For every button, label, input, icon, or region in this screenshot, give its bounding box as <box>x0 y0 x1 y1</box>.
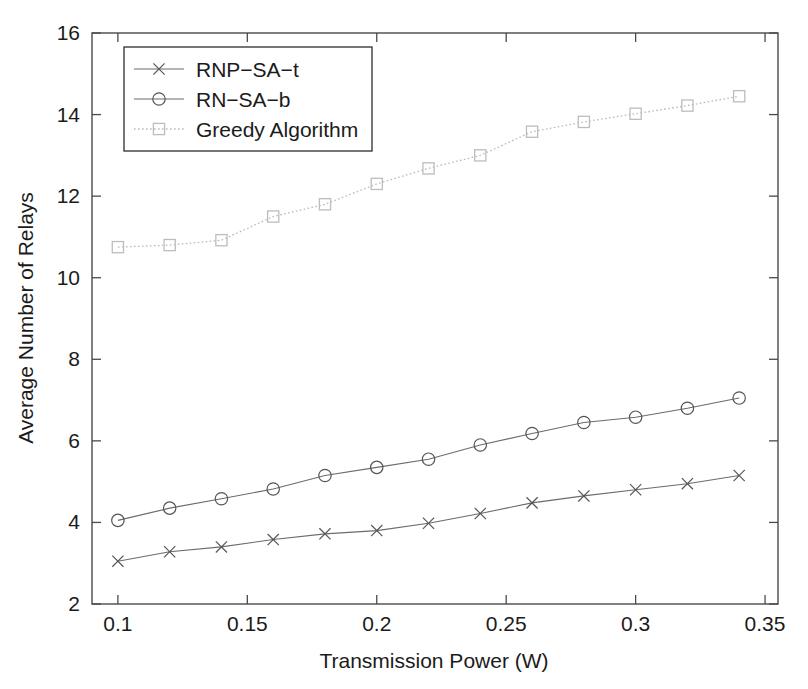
figure-background <box>0 0 808 689</box>
y-tick-label: 4 <box>68 510 80 533</box>
y-axis-label: Average Number of Relays <box>14 192 37 444</box>
x-axis-label: Transmission Power (W) <box>319 649 548 672</box>
x-tick-label: 0.25 <box>486 612 527 635</box>
y-tick-label: 12 <box>57 184 80 207</box>
legend-label: RN−SA−b <box>196 88 291 111</box>
y-tick-label: 10 <box>57 266 80 289</box>
x-tick-label: 0.15 <box>227 612 268 635</box>
chart-figure: 0.10.150.20.250.30.35 246810121416 Trans… <box>0 0 808 689</box>
x-tick-label: 0.1 <box>103 612 132 635</box>
x-tick-label: 0.3 <box>621 612 650 635</box>
x-tick-label: 0.2 <box>362 612 391 635</box>
y-tick-label: 8 <box>68 347 80 370</box>
x-tick-label: 0.35 <box>745 612 786 635</box>
legend-label: Greedy Algorithm <box>196 118 358 141</box>
y-tick-label: 6 <box>68 429 80 452</box>
y-tick-label: 14 <box>57 103 81 126</box>
chart-legend[interactable]: RNP−SA−tRN−SA−bGreedy Algorithm <box>124 47 372 151</box>
legend-label: RNP−SA−t <box>196 58 299 81</box>
chart-canvas: 0.10.150.20.250.30.35 246810121416 Trans… <box>0 0 808 689</box>
y-tick-label: 2 <box>68 592 80 615</box>
y-tick-label: 16 <box>57 21 80 44</box>
